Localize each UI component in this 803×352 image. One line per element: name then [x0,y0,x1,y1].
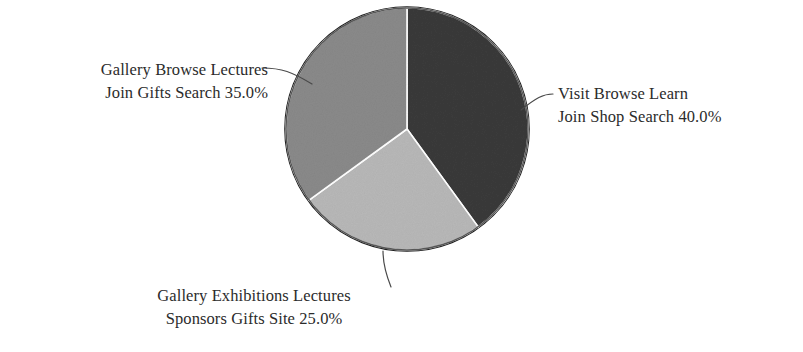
pie-chart-figure: Gallery Browse Lectures Join Gifts Searc… [0,0,803,352]
pie-label-bottom-line1: Gallery Exhibitions Lectures [118,284,390,307]
pie-label-left-line2: Join Gifts Search 35.0% [46,81,268,104]
pie-label-gallery-browse-lectures: Gallery Browse Lectures Join Gifts Searc… [46,58,268,105]
pie-slices-group [286,8,528,250]
pie-label-gallery-exhibitions-lectures: Gallery Exhibitions Lectures Sponsors Gi… [118,284,390,331]
leader-line-bottom [383,251,391,287]
pie-label-right-line2: Join Shop Search 40.0% [558,105,722,128]
pie-label-bottom-line2: Sponsors Gifts Site 25.0% [118,307,390,330]
pie-label-right-line1: Visit Browse Learn [558,82,722,105]
pie-label-left-line1: Gallery Browse Lectures [46,58,268,81]
pie-label-visit-browse-learn: Visit Browse Learn Join Shop Search 40.0… [558,82,722,129]
